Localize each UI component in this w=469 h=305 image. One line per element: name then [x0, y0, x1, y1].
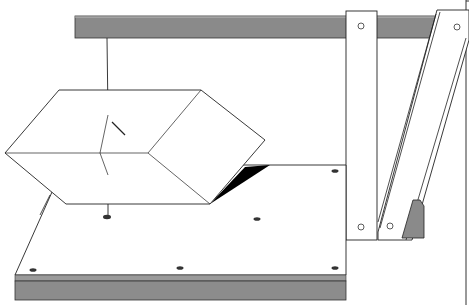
illustration [0, 0, 469, 305]
overhead-bar [75, 16, 445, 38]
upright-post [346, 11, 377, 240]
